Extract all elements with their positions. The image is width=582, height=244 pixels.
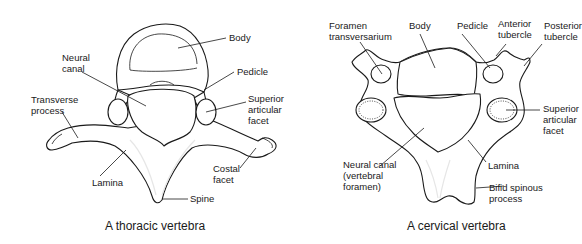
caption-thoracic: A thoracic vertebra [105,219,205,233]
label-body: Body [229,32,251,43]
thoracic-left-facet [108,99,128,125]
label-anterior-tubercle: Anterior tubercle [498,18,532,40]
label-pedicle: Pedicle [457,20,488,31]
label-foramen-transversarium: Foramen transversarium [329,20,392,42]
cervical-right-foramen [483,65,503,83]
cervical-body [397,48,477,96]
cervical-vertebra-figure: Foramen transversarium Body Pedicle Ante… [290,0,579,244]
label-spine: Spine [190,193,214,204]
label-lamina: Lamina [488,160,519,171]
thoracic-vertebra-figure: Body Neural canal Pedicle Transverse pro… [0,0,290,244]
label-neural-canal: Neural canal [62,52,90,74]
cervical-left-facet [356,98,386,122]
cervical-left-foramen [371,65,391,83]
label-posterior-tubercle: Posterior tubercle [544,20,582,42]
label-lamina: Lamina [92,177,123,188]
label-body: Body [409,20,431,31]
label-transverse-process: Transverse process [31,94,78,116]
label-superior-articular-facet: Superior articular facet [248,93,284,126]
label-costal-facet: Costal facet [213,163,240,185]
label-superior-articular-facet: Superior articular facet [543,103,579,136]
label-neural-canal: Neural canal (vertebral foramen) [343,159,396,192]
label-bifid-spinous-process: Bifid spinous process [489,182,543,204]
caption-cervical: A cervical vertebra [407,219,506,233]
label-pedicle: Pedicle [237,66,268,77]
